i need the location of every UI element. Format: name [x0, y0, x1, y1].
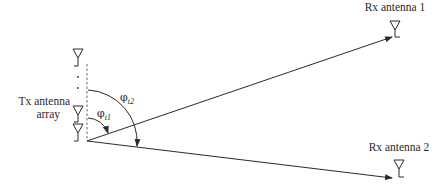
tx-antenna-array: [73, 49, 83, 141]
ray-to-rx2: [87, 141, 392, 178]
ray-to-rx1: [87, 37, 392, 141]
antenna-diagram: φt1 φt2 Tx antenna array Rx antenna 1 Rx…: [0, 0, 447, 191]
antenna-icon: [73, 124, 83, 141]
antenna-icon: [390, 21, 400, 37]
tx-label-line2: array: [36, 108, 60, 121]
rx1-label: Rx antenna 1: [365, 1, 426, 13]
angle-label-t1: φt1: [97, 107, 111, 122]
array-dot: [77, 76, 79, 78]
antenna-icon: [73, 106, 83, 122]
array-dot: [77, 87, 79, 89]
angle-label-t2: φt2: [120, 91, 134, 106]
rx2-label: Rx antenna 2: [369, 141, 430, 153]
antenna-icon: [394, 160, 404, 177]
antenna-icon: [73, 49, 83, 66]
tx-label-line1: Tx antenna: [19, 95, 70, 107]
